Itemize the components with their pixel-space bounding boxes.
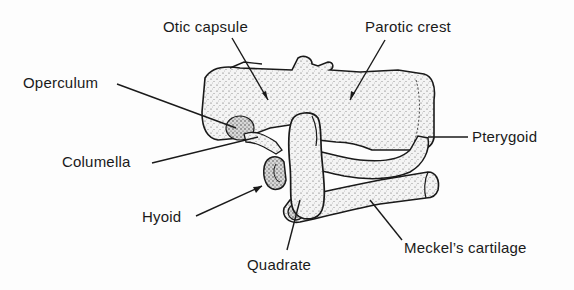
columella-shape [244,132,282,154]
label-columella: Columella [62,154,131,169]
leader-columella [152,137,258,163]
hyoid-shape [264,157,286,190]
label-parotic-crest: Parotic crest [365,19,451,34]
label-otic-capsule: Otic capsule [163,19,248,34]
leader-hyoid [196,186,262,216]
leader-meckels-cartilage [370,200,402,240]
label-meckels-cartilage: Meckel’s cartilage [404,240,527,255]
diagram-canvas: Otic capsule Parotic crest Operculum Col… [0,0,574,290]
quadrate-shape [289,113,325,219]
label-pterygoid: Pterygoid [472,129,537,144]
label-hyoid: Hyoid [142,209,181,224]
label-quadrate: Quadrate [247,257,311,272]
label-operculum: Operculum [23,75,98,90]
